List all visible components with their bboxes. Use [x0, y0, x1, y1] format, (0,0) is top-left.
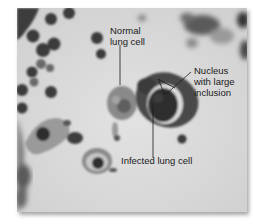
label-normal-lung-cell: Normal lung cell	[110, 25, 145, 47]
label-nucleus-inclusion: Nucleus with large inclusion	[194, 65, 235, 98]
micrograph-figure: Normal lung cell Nucleus with large incl…	[17, 8, 247, 212]
label-infected-lung-cell: Infected lung cell	[121, 155, 192, 166]
